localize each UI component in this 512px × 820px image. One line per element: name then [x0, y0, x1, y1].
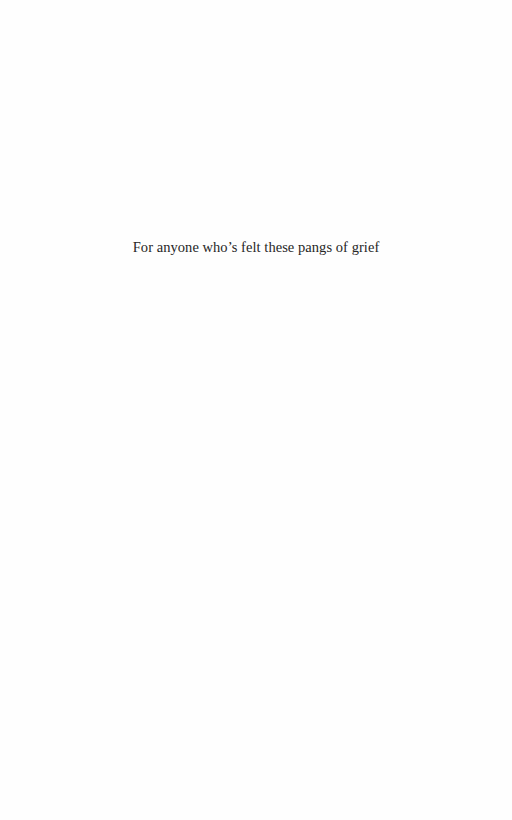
dedication-text: For anyone who’s felt these pangs of gri…	[0, 239, 512, 256]
book-page: For anyone who’s felt these pangs of gri…	[0, 0, 512, 820]
